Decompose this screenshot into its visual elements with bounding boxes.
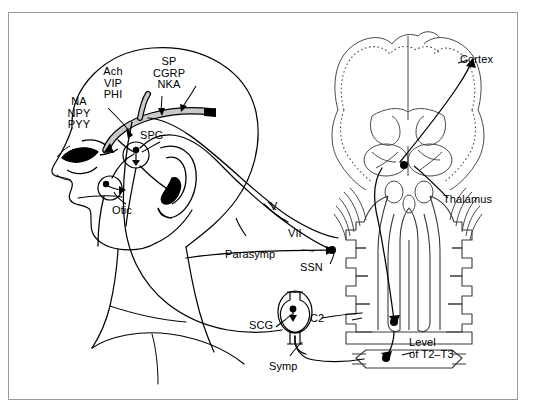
- figure-canvas: NA NPY PYY Ach VIP PHI SP CGRP NKA SPG O…: [0, 0, 534, 417]
- label-scg: SCG: [249, 320, 273, 332]
- label-symp: Symp: [269, 361, 298, 373]
- ear: [158, 146, 196, 218]
- label-spg: SPG: [140, 130, 164, 142]
- label-c2: C2: [310, 313, 324, 325]
- label-level-t2-t3: Level of T2–T3: [409, 337, 454, 360]
- label-sensory-transmitters: SP CGRP NKA: [147, 56, 191, 91]
- label-parasymp: Parasymp: [225, 249, 275, 261]
- label-otic: Otic: [112, 205, 132, 217]
- label-parasympathetic-transmitters: Ach VIP PHI: [98, 66, 128, 101]
- label-thalamus: Thalamus: [443, 194, 492, 206]
- label-cortex: Cortex: [460, 54, 493, 66]
- label-sympathetic-transmitters: NA NPY PYY: [62, 96, 96, 131]
- cranial-vessel: [106, 94, 216, 150]
- label-ssn: SSN: [300, 262, 323, 274]
- label-nerve-vii: VII: [288, 228, 302, 240]
- neural-pathways: [98, 60, 472, 362]
- label-nerve-v: V: [270, 201, 277, 213]
- anatomy-drawing: [0, 0, 534, 417]
